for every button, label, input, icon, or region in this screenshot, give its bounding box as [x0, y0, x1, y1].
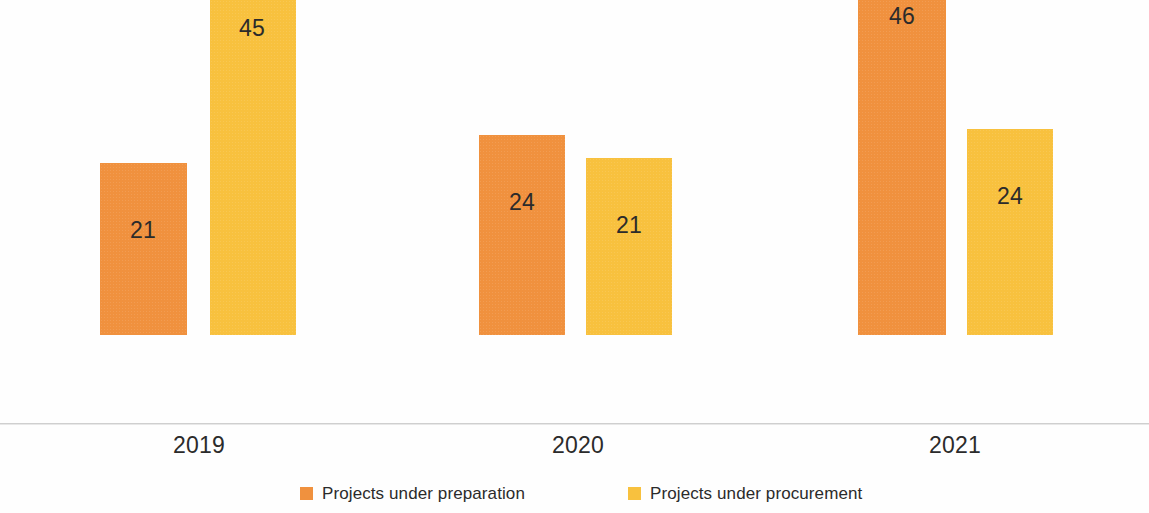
- legend-item-procurement: Projects under procurement: [628, 485, 862, 502]
- value-label-2020-procurement: 21: [589, 214, 669, 237]
- square-swatch-icon: [628, 487, 641, 500]
- value-label-2020-preparation: 24: [482, 191, 562, 214]
- value-label-2021-procurement: 24: [970, 185, 1050, 208]
- legend-item-preparation: Projects under preparation: [300, 485, 525, 502]
- legend-label-preparation: Projects under preparation: [322, 485, 525, 502]
- category-axis-line: [0, 423, 1149, 424]
- value-label-2021-preparation: 46: [862, 5, 942, 28]
- value-label-2019-preparation: 21: [103, 219, 183, 242]
- value-label-2019-procurement: 45: [212, 17, 292, 40]
- plot-area: 21 45 24 21 46 24: [0, 0, 1149, 424]
- bar-2021-preparation: [858, 0, 946, 335]
- bar-2019-preparation: [100, 163, 187, 335]
- category-label-2019: 2019: [149, 434, 249, 457]
- legend-label-procurement: Projects under procurement: [650, 485, 862, 502]
- category-label-2020: 2020: [528, 434, 628, 457]
- bar-2020-preparation: [479, 135, 565, 335]
- bar-2019-procurement: [210, 0, 296, 335]
- chart-legend: Projects under preparation Projects unde…: [0, 481, 1149, 513]
- bar-2021-procurement: [967, 129, 1053, 335]
- square-swatch-icon: [300, 487, 313, 500]
- bar-2020-procurement: [586, 158, 672, 335]
- bar-chart: 21 45 24 21 46 24 2019 2020 2021 Project…: [0, 0, 1149, 513]
- category-label-2021: 2021: [905, 434, 1005, 457]
